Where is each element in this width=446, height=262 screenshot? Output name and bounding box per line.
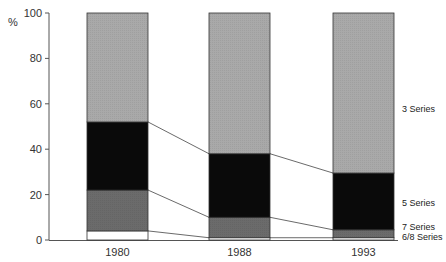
- x-tick-label: 1988: [227, 246, 251, 258]
- x-axis-labels: 198019881993: [105, 246, 375, 258]
- y-tick-label: 0: [36, 234, 42, 246]
- bar-segment: [87, 231, 148, 240]
- x-tick-label: 1980: [105, 246, 129, 258]
- bars: [87, 13, 394, 240]
- y-tick-label: 60: [30, 98, 42, 110]
- legend-label: 6/8 Series: [402, 232, 443, 242]
- y-tick-label: 100: [24, 7, 42, 19]
- legend-label: 7 Series: [402, 222, 436, 232]
- bar-1988: [209, 13, 270, 240]
- bar-1980: [87, 13, 148, 240]
- y-axis-label: %: [8, 16, 18, 28]
- y-tick-label: 80: [30, 52, 42, 64]
- legend-label: 3 Series: [402, 104, 436, 114]
- legend: 3 Series5 Series7 Series6/8 Series: [402, 104, 443, 242]
- bar-segment: [87, 122, 148, 190]
- legend-label: 5 Series: [402, 198, 436, 208]
- y-tick-label: 20: [30, 189, 42, 201]
- bar-segment: [209, 154, 270, 218]
- y-tick-label: 40: [30, 143, 42, 155]
- stacked-bar-chart: 020406080100% 198019881993 3 Series5 Ser…: [0, 0, 446, 262]
- x-tick-label: 1993: [351, 246, 375, 258]
- bar-segment: [333, 173, 394, 230]
- bar-1993: [333, 13, 394, 240]
